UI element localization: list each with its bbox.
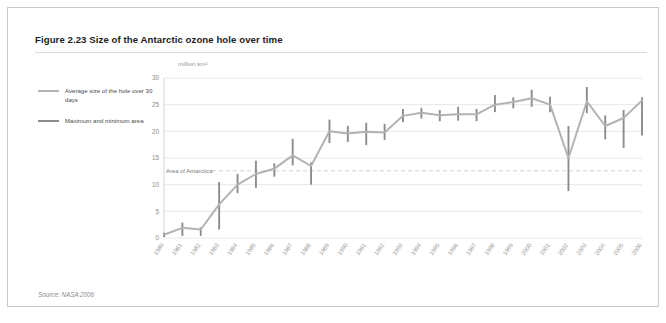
x-axis-tick-label: 1995 [428, 242, 441, 257]
x-axis-tick-label: 1987 [281, 242, 293, 256]
x-axis-tick-label: 1991 [355, 242, 367, 256]
x-axis-tick-label: 2001 [538, 242, 550, 256]
page-title: Figure 2.23 Size of the Antarctic ozone … [35, 34, 283, 45]
x-axis-tick-label: 2004 [594, 242, 607, 257]
y-axis-tick-label: 20 [152, 128, 160, 135]
x-axis-tick-label: 1993 [391, 242, 404, 257]
y-axis-tick-label: 0 [155, 234, 159, 241]
y-axis-tick-label: 10 [152, 181, 160, 188]
x-axis-tick-label: 2003 [575, 242, 588, 257]
x-axis-tick-label: 1984 [226, 242, 239, 257]
x-axis-tick-label: 1980 [152, 242, 165, 257]
figure-screenshot: Figure 2.23 Size of the Antarctic ozone … [0, 0, 666, 323]
x-axis-tick-label: 1988 [299, 242, 312, 257]
legend-swatch-average [38, 90, 59, 92]
x-axis-tick-label: 1999 [502, 242, 514, 256]
x-axis-tick-label: 1994 [410, 242, 423, 257]
x-axis-tick-label: 2006 [630, 242, 643, 257]
figure-frame: Figure 2.23 Size of the Antarctic ozone … [7, 7, 659, 307]
x-axis-tick-label: 2005 [612, 242, 625, 257]
chart-plot-area: 051015202530Area of Antarctica1980198119… [136, 70, 648, 280]
x-axis-tick-label: 1986 [263, 242, 276, 257]
legend-swatch-range [38, 120, 59, 122]
x-axis-tick-label: 1998 [483, 242, 496, 257]
ozone-hole-line-chart: 051015202530Area of Antarctica1980198119… [136, 70, 648, 280]
x-axis-tick-label: 1997 [465, 242, 477, 256]
annotation-area-of-antarctica: Area of Antarctica [166, 168, 213, 174]
x-axis-tick-label: 1990 [336, 242, 349, 257]
x-axis-tick-label: 2002 [557, 242, 569, 256]
y-axis-tick-label: 5 [155, 208, 159, 215]
x-axis-tick-label: 2000 [520, 242, 533, 257]
y-axis-tick-label: 15 [152, 154, 160, 161]
x-axis-tick-label: 1982 [189, 242, 201, 256]
x-axis-tick-label: 1996 [447, 242, 460, 257]
x-axis-tick-label: 1981 [171, 242, 183, 256]
y-axis-tick-label: 25 [152, 101, 160, 108]
source-note: Source: NASA 2006 [38, 291, 94, 298]
x-axis-tick-label: 1983 [208, 242, 221, 257]
title-divider [35, 52, 647, 53]
x-axis-tick-label: 1985 [244, 242, 257, 257]
x-axis-tick-label: 1989 [318, 242, 330, 256]
x-axis-tick-label: 1992 [373, 242, 385, 256]
y-axis-tick-label: 30 [152, 74, 160, 81]
y-axis-unit-label: million km² [178, 60, 208, 67]
